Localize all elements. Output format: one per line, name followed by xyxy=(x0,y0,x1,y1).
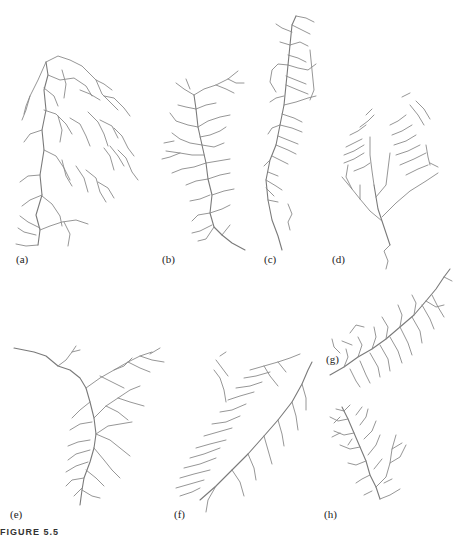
panel-a: (a) xyxy=(0,0,160,270)
panel-label-b: (b) xyxy=(162,254,175,265)
panel-f: (f) xyxy=(160,340,330,525)
panel-label-a: (a) xyxy=(16,254,28,265)
panel-label-g: (g) xyxy=(326,354,339,365)
panel-h: (h) xyxy=(320,395,420,525)
drainage-network-h xyxy=(320,395,420,525)
panel-b: (b) xyxy=(150,55,260,270)
drainage-network-d xyxy=(330,85,457,270)
panel-c: (c) xyxy=(250,0,340,270)
panel-e: (e) xyxy=(0,330,180,525)
drainage-network-e xyxy=(0,330,180,525)
figure-caption: FIGURE 5.5 xyxy=(0,527,59,537)
drainage-network-b xyxy=(150,55,260,270)
drainage-network-f xyxy=(160,340,330,525)
panel-label-f: (f) xyxy=(174,509,185,520)
panel-d: (d) xyxy=(330,85,457,270)
drainage-network-g xyxy=(320,255,457,400)
drainage-network-c xyxy=(250,0,340,270)
drainage-network-a xyxy=(0,0,160,270)
panel-g: (g) xyxy=(320,255,457,400)
panel-label-e: (e) xyxy=(10,509,22,520)
panel-label-c: (c) xyxy=(264,254,276,265)
panel-label-h: (h) xyxy=(324,509,337,520)
